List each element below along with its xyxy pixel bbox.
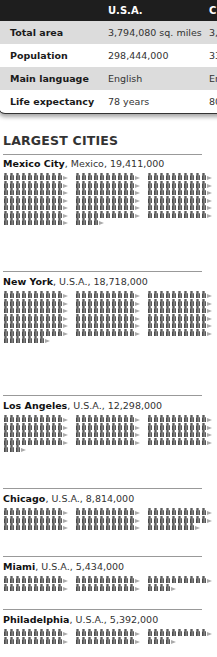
figure-group bbox=[3, 314, 68, 321]
shadow-arrow-icon bbox=[135, 188, 140, 195]
shadow-arrow-icon bbox=[63, 291, 68, 298]
shadow-arrow-icon bbox=[63, 430, 68, 437]
figure-group bbox=[147, 188, 212, 195]
figure-group bbox=[3, 637, 68, 644]
shadow-arrow-icon bbox=[135, 584, 140, 591]
figure-group bbox=[147, 516, 212, 523]
divider bbox=[3, 488, 202, 489]
figure-group bbox=[75, 218, 104, 225]
figure-group bbox=[3, 291, 68, 298]
pictogram-row bbox=[3, 196, 213, 203]
pictogram-row bbox=[3, 203, 213, 210]
pictogram-row bbox=[3, 629, 213, 636]
shadow-arrow-icon bbox=[207, 314, 212, 321]
shadow-arrow-icon bbox=[135, 314, 140, 321]
shadow-arrow-icon bbox=[63, 173, 68, 180]
figure-group bbox=[3, 181, 68, 188]
figure-group bbox=[75, 211, 140, 218]
figure-group bbox=[3, 445, 26, 452]
divider bbox=[3, 609, 202, 610]
pictogram-row bbox=[3, 438, 213, 445]
figure-group bbox=[3, 430, 68, 437]
shadow-arrow-icon bbox=[207, 329, 212, 336]
figure-group bbox=[75, 291, 140, 298]
row-label: Population bbox=[10, 50, 68, 61]
pictogram-row bbox=[3, 584, 213, 591]
shadow-arrow-icon bbox=[207, 576, 212, 583]
figure-group bbox=[147, 196, 212, 203]
figure-group bbox=[75, 423, 140, 430]
shadow-arrow-icon bbox=[135, 291, 140, 298]
pictogram-row bbox=[3, 291, 213, 298]
figure-group bbox=[3, 188, 68, 195]
shadow-arrow-icon bbox=[63, 423, 68, 430]
figure-group bbox=[147, 523, 200, 530]
city-chicago: Chicago, U.S.A., 8,814,000 bbox=[3, 492, 213, 531]
row-label: Life expectancy bbox=[10, 96, 94, 107]
column-other: C bbox=[209, 5, 216, 16]
shadow-arrow-icon bbox=[135, 629, 140, 636]
figure-group bbox=[3, 438, 68, 445]
figure-group bbox=[3, 196, 68, 203]
pictogram-row bbox=[3, 299, 213, 306]
shadow-arrow-icon bbox=[135, 211, 140, 218]
shadow-arrow-icon bbox=[135, 321, 140, 328]
figure-group bbox=[75, 203, 140, 210]
figure-group bbox=[75, 508, 140, 515]
city-name: New York bbox=[3, 276, 53, 287]
pictogram-row bbox=[3, 173, 213, 180]
figure-group bbox=[3, 523, 68, 530]
other-value: En bbox=[209, 73, 217, 84]
figure-group bbox=[75, 584, 140, 591]
figure-group bbox=[3, 321, 68, 328]
pictogram-row bbox=[3, 336, 213, 343]
city-details: , U.S.A., 12,298,000 bbox=[67, 400, 162, 411]
shadow-arrow-icon bbox=[63, 314, 68, 321]
shadow-arrow-icon bbox=[207, 211, 212, 218]
city-name: Mexico City bbox=[3, 158, 65, 169]
city-label: Los Angeles, U.S.A., 12,298,000 bbox=[3, 399, 213, 413]
figure-group bbox=[147, 576, 212, 583]
figure-group bbox=[147, 211, 212, 218]
table-header: U.S.A. C bbox=[0, 0, 217, 21]
city-details: , U.S.A., 18,718,000 bbox=[53, 276, 148, 287]
shadow-arrow-icon bbox=[63, 438, 68, 445]
shadow-arrow-icon bbox=[63, 188, 68, 195]
pictogram-row bbox=[3, 423, 213, 430]
table-row: Main language English En bbox=[0, 67, 217, 90]
shadow-arrow-icon bbox=[21, 445, 26, 452]
row-label: Total area bbox=[10, 27, 63, 38]
pictogram-row bbox=[3, 508, 213, 515]
shadow-arrow-icon bbox=[171, 637, 176, 644]
figure-group bbox=[3, 629, 68, 636]
figure-group bbox=[147, 637, 176, 644]
usa-value: 3,794,080 sq. miles bbox=[108, 27, 202, 38]
shadow-arrow-icon bbox=[63, 181, 68, 188]
figure-group bbox=[3, 508, 68, 515]
city-philadelphia: Philadelphia, U.S.A., 5,392,000 bbox=[3, 613, 213, 644]
city-details: , U.S.A., 8,814,000 bbox=[45, 493, 134, 504]
figure-group bbox=[147, 321, 212, 328]
figure-group bbox=[147, 181, 212, 188]
shadow-arrow-icon bbox=[207, 291, 212, 298]
figure-group bbox=[3, 299, 68, 306]
other-value: 3, bbox=[209, 27, 217, 38]
divider bbox=[3, 271, 202, 272]
shadow-arrow-icon bbox=[135, 181, 140, 188]
shadow-arrow-icon bbox=[63, 218, 68, 225]
shadow-arrow-icon bbox=[135, 196, 140, 203]
figure-group bbox=[147, 173, 212, 180]
pictogram-row bbox=[3, 445, 213, 452]
figure-group bbox=[75, 415, 140, 422]
city-label: Philadelphia, U.S.A., 5,392,000 bbox=[3, 613, 213, 627]
figure-group bbox=[3, 173, 68, 180]
shadow-arrow-icon bbox=[207, 438, 212, 445]
shadow-arrow-icon bbox=[63, 508, 68, 515]
pictogram-row bbox=[3, 516, 213, 523]
figure-group bbox=[147, 203, 212, 210]
pictogram-row bbox=[3, 415, 213, 422]
table-row: Population 298,444,000 33 bbox=[0, 44, 217, 67]
shadow-arrow-icon bbox=[63, 576, 68, 583]
figure-group bbox=[3, 576, 68, 583]
shadow-arrow-icon bbox=[135, 329, 140, 336]
